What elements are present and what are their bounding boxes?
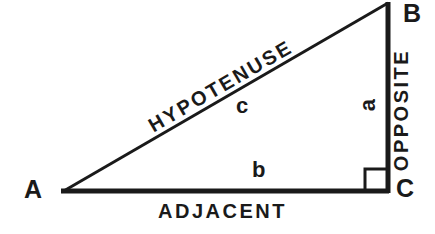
side-letter-a: a [357,99,379,111]
hypotenuse-line [62,3,388,192]
side-letter-c: c [236,95,248,117]
vertex-label-b: B [403,1,421,26]
vertex-label-c: C [396,176,414,201]
triangle-svg-canvas [0,0,435,234]
side-letter-b: b [252,159,265,181]
vertex-label-a: A [24,177,42,202]
adjacent-label: ADJACENT [158,201,287,221]
triangle-diagram: A B C c b a HYPOTENUSE ADJACENT OPPOSITE [0,0,435,234]
right-angle-marker-icon [365,169,387,190]
opposite-label: OPPOSITE [391,49,411,171]
